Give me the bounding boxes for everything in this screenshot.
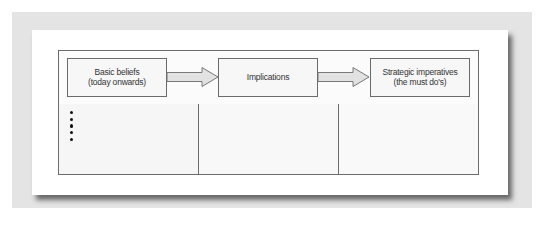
column-strategic-imperatives xyxy=(339,104,478,174)
box-label-line1: Implications xyxy=(247,73,289,83)
bullet-icon xyxy=(70,111,73,114)
bullet-icon xyxy=(70,131,73,134)
arrow-right-icon xyxy=(318,67,370,87)
bullet-icon xyxy=(70,138,73,141)
box-label-line2: (today onwards) xyxy=(88,78,146,88)
column-implications xyxy=(199,104,338,174)
bullet-icon xyxy=(70,124,73,127)
column-divider-2 xyxy=(338,104,339,174)
bullet-icon xyxy=(70,118,73,121)
box-label-line2: (the must do's) xyxy=(394,78,447,88)
bullet-list xyxy=(70,111,73,141)
box-strategic-imperatives: Strategic imperatives (the must do's) xyxy=(370,58,470,97)
box-implications: Implications xyxy=(218,58,318,97)
arrow-right-icon xyxy=(167,67,219,87)
column-basic-beliefs xyxy=(59,104,198,174)
column-divider-1 xyxy=(198,104,199,174)
box-basic-beliefs: Basic beliefs (today onwards) xyxy=(67,58,167,97)
